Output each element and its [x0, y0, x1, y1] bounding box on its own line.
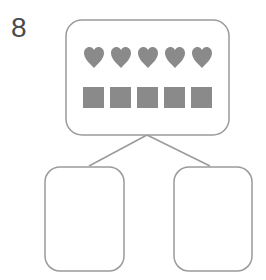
number-bond-diagram: [0, 0, 266, 280]
square-icon: [110, 87, 131, 108]
connector-left: [89, 135, 147, 166]
squares-row: [83, 87, 212, 108]
square-icon: [191, 87, 212, 108]
part-box-left[interactable]: [45, 167, 124, 271]
square-icon: [164, 87, 185, 108]
part-box-right[interactable]: [174, 167, 252, 271]
whole-box: [66, 20, 229, 135]
square-icon: [137, 87, 158, 108]
connector-right: [147, 135, 210, 166]
square-icon: [83, 87, 104, 108]
